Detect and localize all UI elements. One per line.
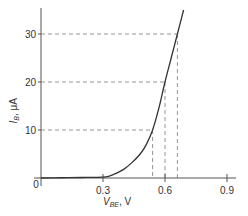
origin-label: 0 xyxy=(33,179,39,190)
y-tick-label: 20 xyxy=(25,77,37,88)
y-axis-label-unit: , μA xyxy=(8,98,19,116)
x-tick-label: 0.6 xyxy=(158,185,172,196)
y-tick-label: 30 xyxy=(25,29,37,40)
y-axis-label: IB, μA xyxy=(8,98,20,124)
y-tick-label: 10 xyxy=(25,125,37,136)
ticks: 0.30.60.9102030 xyxy=(25,29,235,197)
series-line xyxy=(41,10,184,178)
x-axis-label-unit: , V xyxy=(119,196,132,207)
x-tick-label: 0.9 xyxy=(220,185,234,196)
reference-lines xyxy=(41,34,177,178)
x-axis-label: VBE, V xyxy=(103,196,132,208)
chart: 0.30.60.9102030 0 VBE, V IB, μA xyxy=(0,0,248,216)
x-axis-label-sub: BE xyxy=(110,201,120,208)
x-tick-label: 0.3 xyxy=(96,185,110,196)
